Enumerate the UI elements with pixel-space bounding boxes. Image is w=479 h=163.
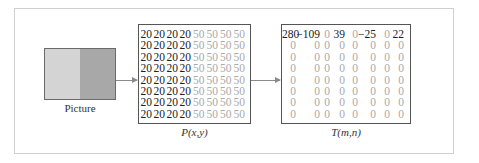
matrix-t-grid: 280−1090390−2502200000000000000000000000… bbox=[282, 25, 410, 120]
matrix-p-cell: 50 bbox=[218, 109, 232, 120]
matrix-p-cell: 20 bbox=[165, 63, 178, 74]
matrix-p-cell: 20 bbox=[139, 109, 152, 120]
matrix-t-cell: 0 bbox=[330, 63, 345, 74]
matrix-p-cell: 20 bbox=[152, 109, 165, 120]
matrix-t-cell: 0 bbox=[320, 63, 330, 74]
matrix-p-grid: 2020202050505050202020205050505020202020… bbox=[139, 25, 250, 120]
matrix-p-cell: 50 bbox=[205, 63, 219, 74]
matrix-t-cell: 0 bbox=[345, 63, 358, 74]
matrix-t-cell: 0 bbox=[330, 109, 345, 120]
picture-light-half bbox=[45, 49, 80, 99]
matrix-p-cell: 50 bbox=[232, 109, 246, 120]
matrix-p-cell: 50 bbox=[191, 109, 205, 120]
matrix-p-cell: 20 bbox=[178, 63, 191, 74]
matrix-t-cell: 0 bbox=[376, 109, 390, 120]
matrix-t-caption: T(m,n) bbox=[281, 126, 411, 138]
picture-caption: Picture bbox=[44, 102, 116, 114]
matrix-t-cell: 0 bbox=[390, 109, 404, 120]
matrix-t-cell: 0 bbox=[320, 109, 330, 120]
matrix-t-cell: 0 bbox=[358, 109, 376, 120]
matrix-p-cell: 20 bbox=[165, 109, 178, 120]
matrix-t-cell: 0 bbox=[390, 63, 404, 74]
matrix-p: 2020202050505050202020205050505020202020… bbox=[138, 24, 251, 124]
matrix-p-cell: 50 bbox=[218, 63, 232, 74]
matrix-p-cell: 20 bbox=[152, 63, 165, 74]
matrix-t-cell: 0 bbox=[296, 109, 320, 120]
matrix-p-cell: 20 bbox=[178, 109, 191, 120]
matrix-t: 280−1090390−2502200000000000000000000000… bbox=[281, 24, 411, 124]
picture-image bbox=[44, 48, 116, 100]
matrix-p-caption: P(x,y) bbox=[138, 126, 251, 138]
matrix-t-cell: 0 bbox=[345, 109, 358, 120]
matrix-p-cell: 50 bbox=[232, 63, 246, 74]
matrix-p-cell: 20 bbox=[139, 63, 152, 74]
matrix-t-cell: 0 bbox=[282, 109, 296, 120]
picture-dark-half bbox=[80, 49, 115, 99]
matrix-p-cell: 50 bbox=[205, 109, 219, 120]
arrow-icon bbox=[116, 80, 137, 81]
matrix-t-cell: 0 bbox=[376, 63, 390, 74]
matrix-p-cell: 50 bbox=[191, 63, 205, 74]
matrix-t-cell: 0 bbox=[358, 63, 376, 74]
matrix-t-cell: 0 bbox=[282, 63, 296, 74]
matrix-t-cell: 0 bbox=[296, 63, 320, 74]
arrow-icon bbox=[251, 80, 280, 81]
